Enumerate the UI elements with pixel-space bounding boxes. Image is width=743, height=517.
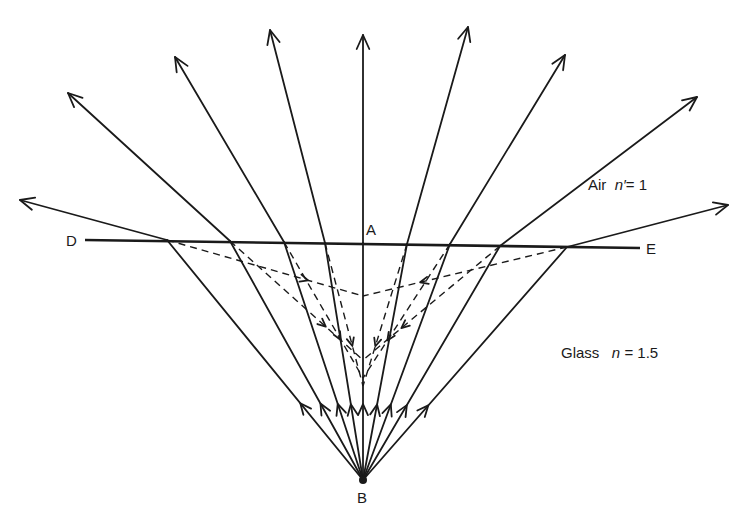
air-medium-name: Air [588,176,606,193]
glass-index-symbol: n [612,344,620,361]
incident-ray-arrow-icon [397,405,407,417]
incident-ray [363,244,450,480]
refracted-ray-arrow-icon [552,55,565,70]
incident-rays-in-glass [167,240,567,480]
virtual-ray-extension [363,247,567,296]
virtual-ray-extension [363,246,500,360]
label-point-b: B [357,490,367,505]
label-point-a: A [366,222,376,237]
refraction-diagram [0,0,743,517]
refracted-ray [450,55,565,244]
incident-ray [363,244,407,480]
refracted-ray-arrow-icon [175,57,188,72]
incident-ray [363,246,500,480]
incident-ray [167,240,363,480]
refracted-ray [175,57,284,242]
glass-medium-name: Glass [561,344,599,361]
air-index-value: = 1 [626,176,647,193]
refracted-ray [500,97,697,246]
virtual-ray-extension [167,240,363,296]
glass-index-value: = 1.5 [624,344,658,361]
source-point-b-dot [359,476,367,484]
air-index-symbol: n′ [615,176,626,193]
virtual-ray-extension [363,244,450,378]
refracted-ray [270,30,325,243]
air-medium-label: Air n′= 1 [588,177,647,192]
refracted-ray [20,200,167,240]
glass-medium-label: Glass n = 1.5 [561,345,658,360]
refracted-ray [407,27,468,244]
refracted-rays-in-air [20,27,728,247]
label-point-e: E [646,241,656,256]
incident-ray [363,247,567,480]
label-point-d: D [66,233,77,248]
